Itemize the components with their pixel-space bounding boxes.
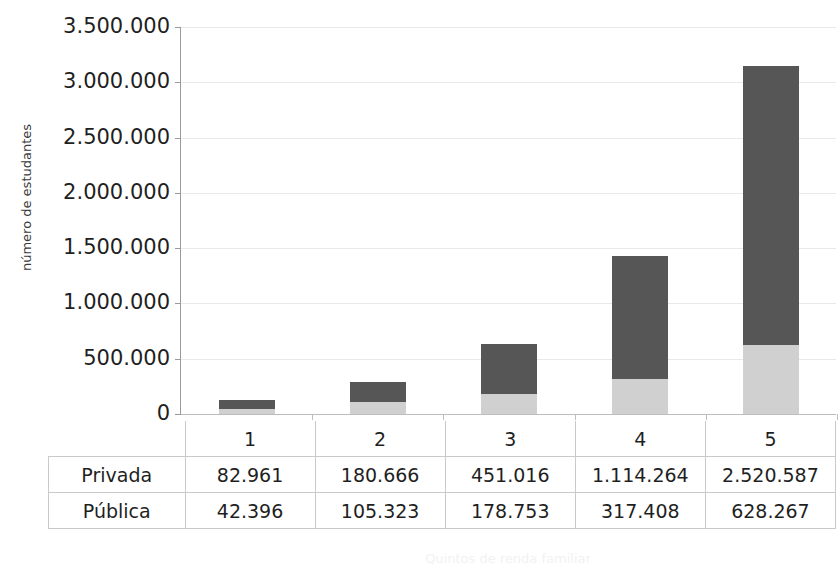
y-axis-tick: [175, 193, 181, 194]
table-header-cell: 1: [185, 421, 315, 457]
table-row: Privada82.961180.666451.0161.114.2642.52…: [49, 457, 836, 493]
table-cell: 317.408: [575, 493, 705, 529]
x-axis-tick: [575, 414, 576, 420]
bar-segment-publica: [743, 345, 799, 414]
y-axis-tick: [175, 414, 181, 415]
table-header-row: 12345: [49, 421, 836, 457]
bar-segment-privada: [481, 344, 537, 394]
table-cell: 82.961: [185, 457, 315, 493]
bar-segment-publica: [219, 409, 275, 414]
table-header-cell: 4: [575, 421, 705, 457]
bar-segment-publica: [612, 379, 668, 414]
bar-stack: [350, 382, 406, 414]
table-cell: 2.520.587: [705, 457, 835, 493]
x-axis-tick: [706, 414, 707, 420]
y-axis-tick-label: 2.000.000: [0, 182, 170, 203]
bar-segment-privada: [350, 382, 406, 402]
y-axis-tick: [175, 138, 181, 139]
bar-segment-publica: [481, 394, 537, 414]
bar-stack: [612, 256, 668, 414]
table-header-cell: 3: [445, 421, 575, 457]
table-header-cell: 2: [315, 421, 445, 457]
bar-segment-privada: [743, 66, 799, 345]
plot-area: 3.500.0003.000.0002.500.0002.000.0001.50…: [180, 27, 836, 414]
gridline: [181, 82, 836, 83]
table-row-label: Pública: [49, 493, 186, 529]
y-axis-tick: [175, 359, 181, 360]
y-axis-tick: [175, 303, 181, 304]
x-axis-tick: [443, 414, 444, 420]
y-axis-tick-label: 1.500.000: [0, 237, 170, 258]
x-axis-tick: [837, 414, 838, 420]
table-cell: 105.323: [315, 493, 445, 529]
chart-figure: número de estudantes 3.500.0003.000.0002…: [0, 0, 839, 568]
bar-segment-privada: [612, 256, 668, 379]
bar-segment-privada: [219, 400, 275, 409]
bar-stack: [219, 400, 275, 414]
bar-stack: [743, 66, 799, 414]
gridline: [181, 248, 836, 249]
table-cell: 628.267: [705, 493, 835, 529]
y-axis-tick-label: 3.000.000: [0, 71, 170, 92]
table-row: Pública42.396105.323178.753317.408628.26…: [49, 493, 836, 529]
y-axis-tick-label: 3.500.000: [0, 16, 170, 37]
gridline: [181, 303, 836, 304]
y-axis-tick-label: 2.500.000: [0, 127, 170, 148]
gridline: [181, 27, 836, 28]
table-header-cell: 5: [705, 421, 835, 457]
table-cell: 451.016: [445, 457, 575, 493]
gridline: [181, 193, 836, 194]
x-axis-tick: [312, 414, 313, 420]
y-axis-tick: [175, 248, 181, 249]
data-table: 12345Privada82.961180.666451.0161.114.26…: [48, 421, 836, 529]
table-corner-cell: [49, 421, 186, 457]
gridline: [181, 414, 836, 415]
x-axis-title: Quintos de renda familiar: [180, 551, 836, 568]
table-cell: 42.396: [185, 493, 315, 529]
bar-segment-publica: [350, 402, 406, 414]
table-cell: 178.753: [445, 493, 575, 529]
y-axis-tick: [175, 27, 181, 28]
y-axis-tick: [175, 82, 181, 83]
bar-stack: [481, 344, 537, 414]
y-axis-tick-label: 500.000: [0, 348, 170, 369]
table-row-label: Privada: [49, 457, 186, 493]
table-cell: 1.114.264: [575, 457, 705, 493]
y-axis-tick-label: 1.000.000: [0, 292, 170, 313]
table-cell: 180.666: [315, 457, 445, 493]
gridline: [181, 138, 836, 139]
